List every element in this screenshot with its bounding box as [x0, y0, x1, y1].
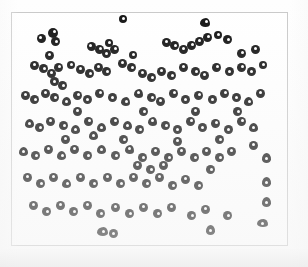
- particle: [249, 141, 258, 150]
- particle-highlight: [265, 157, 268, 160]
- particle: [29, 201, 38, 210]
- particle-highlight: [59, 203, 62, 206]
- particle: [110, 45, 119, 54]
- particle: [103, 173, 112, 182]
- particle-highlight: [194, 109, 197, 112]
- particle: [146, 165, 155, 174]
- particle-highlight: [99, 47, 102, 50]
- particle-highlight: [151, 119, 154, 122]
- particle: [102, 67, 111, 76]
- particle-highlight: [49, 119, 52, 122]
- particle: [96, 209, 105, 218]
- particle-highlight: [228, 70, 231, 73]
- particle: [36, 179, 45, 188]
- particle-highlight: [99, 91, 102, 94]
- particle-highlight: [227, 38, 230, 41]
- particle: [223, 211, 232, 220]
- particle-highlight: [73, 147, 76, 150]
- particle: [244, 97, 253, 106]
- particle-highlight: [112, 232, 115, 235]
- particle-highlight: [55, 40, 58, 43]
- particle: [151, 147, 160, 156]
- particle: [214, 31, 222, 39]
- particle-highlight: [33, 63, 36, 66]
- particle-highlight: [157, 212, 160, 215]
- particle: [155, 173, 164, 182]
- particle-highlight: [216, 65, 219, 68]
- particle-highlight: [114, 205, 117, 208]
- particle-highlight: [142, 205, 145, 208]
- particle-highlight: [115, 154, 118, 157]
- particle: [119, 135, 128, 144]
- particle-highlight: [190, 119, 193, 122]
- particle-highlight: [89, 44, 92, 47]
- particle-highlight: [262, 63, 265, 66]
- particle: [256, 89, 265, 98]
- particle-highlight: [191, 43, 194, 46]
- particle-highlight: [198, 93, 201, 96]
- particle: [211, 119, 220, 128]
- particle: [45, 51, 54, 60]
- particle-highlight: [237, 110, 240, 113]
- particle: [108, 93, 117, 102]
- particle-highlight: [227, 214, 230, 217]
- particle: [179, 63, 188, 72]
- particle-highlight: [143, 110, 146, 113]
- particle: [41, 89, 50, 98]
- particle: [173, 137, 182, 146]
- particle-highlight: [150, 168, 153, 171]
- particle: [139, 203, 148, 212]
- particle-highlight: [184, 98, 187, 101]
- particle-highlight: [44, 91, 47, 94]
- particle-highlight: [176, 139, 179, 142]
- particle: [167, 203, 176, 212]
- particle: [59, 121, 68, 130]
- particle-highlight: [265, 181, 268, 184]
- particle-highlight: [66, 182, 69, 185]
- particle-highlight: [235, 96, 238, 99]
- particle-highlight: [151, 76, 154, 79]
- particle: [181, 175, 190, 184]
- particle-highlight: [100, 212, 103, 215]
- particle-highlight: [252, 126, 255, 129]
- particle-highlight: [61, 154, 64, 157]
- particle-highlight: [106, 70, 109, 73]
- particle: [161, 121, 170, 130]
- particle: [111, 151, 120, 160]
- particle-highlight: [35, 154, 38, 157]
- particle-highlight: [128, 147, 131, 150]
- particle-highlight: [22, 150, 25, 153]
- particle-highlight: [248, 100, 251, 103]
- particle: [73, 107, 82, 116]
- particle-highlight: [24, 93, 27, 96]
- particle: [121, 97, 130, 106]
- particle-highlight: [74, 128, 77, 131]
- particle-highlight: [205, 149, 208, 152]
- particle: [206, 225, 215, 235]
- particle: [85, 69, 94, 78]
- particle-highlight: [207, 35, 210, 38]
- particle: [237, 117, 246, 126]
- particle-highlight: [50, 71, 53, 74]
- particle-highlight: [114, 47, 117, 50]
- particle-highlight: [89, 72, 92, 75]
- particle-highlight: [159, 99, 162, 102]
- particle: [138, 69, 147, 78]
- particle: [21, 91, 30, 100]
- particle-highlight: [43, 67, 46, 70]
- particle-highlight: [120, 182, 123, 185]
- particle-highlight: [88, 119, 91, 122]
- particle-highlight: [254, 47, 257, 50]
- particle-highlight: [70, 63, 73, 66]
- particle-highlight: [52, 175, 55, 178]
- particle-highlight: [132, 175, 135, 178]
- particle-highlight: [142, 156, 145, 159]
- particle-highlight: [141, 71, 144, 74]
- particle-highlight: [191, 214, 194, 217]
- particle-highlight: [198, 39, 201, 42]
- particle-highlight: [209, 229, 212, 232]
- particle: [62, 97, 71, 106]
- particle-highlight: [137, 91, 140, 94]
- particle: [119, 15, 127, 23]
- particle-highlight: [76, 109, 79, 112]
